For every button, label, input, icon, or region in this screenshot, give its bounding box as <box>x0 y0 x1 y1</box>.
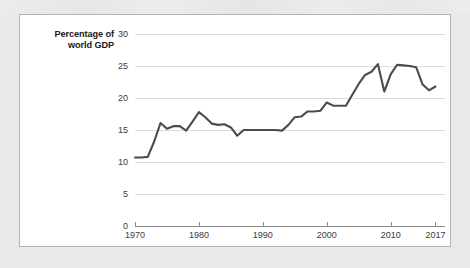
chart-panel: Percentage of world GDP 051015202530 197… <box>19 14 451 247</box>
series-line-path <box>135 64 435 157</box>
scan-ghost-band <box>0 0 470 14</box>
plot-area: Percentage of world GDP 051015202530 197… <box>20 15 450 246</box>
series-line-chart <box>20 15 450 246</box>
